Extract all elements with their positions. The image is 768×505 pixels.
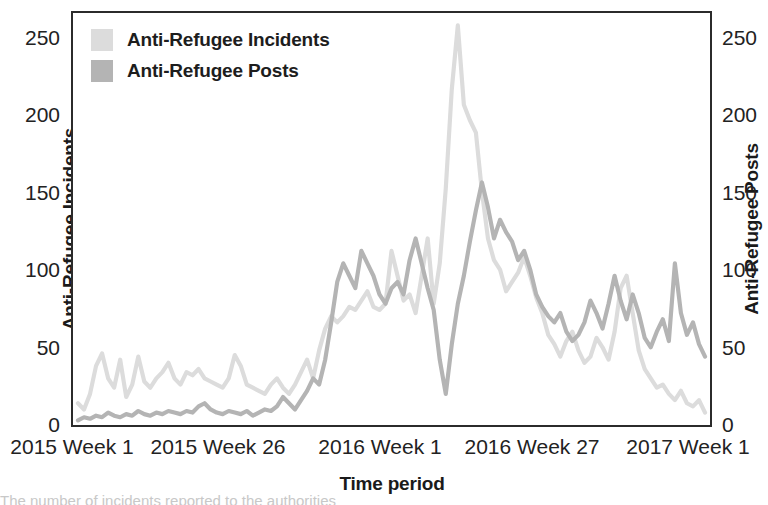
legend-label-incidents: Anti-Refugee Incidents (127, 29, 330, 51)
x-axis-tick-2017-week-1: 2017 Week 1 (608, 435, 768, 459)
y-axis-left-tick-250: 250 (8, 26, 60, 50)
y-axis-right-tick-250: 250 (722, 26, 768, 50)
x-axis-tick-2016-week-27: 2016 Week 27 (452, 435, 612, 459)
x-axis-tick-2015-week-26: 2015 Week 26 (138, 435, 298, 459)
y-axis-left-tick-100: 100 (8, 258, 60, 282)
legend-item-incidents: Anti-Refugee Incidents (91, 29, 330, 51)
plot-area: Anti-Refugee Incidents Anti-Refugee Post… (71, 11, 712, 427)
y-axis-right-title: Anti-Refugee Posts (741, 99, 763, 359)
y-axis-left-tick-0: 0 (8, 413, 60, 437)
x-axis-tick-2016-week-1: 2016 Week 1 (300, 435, 460, 459)
legend-swatch-posts (91, 60, 113, 82)
y-axis-right-tick-200: 200 (722, 103, 768, 127)
y-axis-left-tick-50: 50 (8, 336, 60, 360)
y-axis-left-tick-200: 200 (8, 103, 60, 127)
y-axis-right-tick-0: 0 (722, 413, 768, 437)
chart-legend: Anti-Refugee Incidents Anti-Refugee Post… (91, 29, 330, 91)
page-bottom-partial-text: The number of incidents reported to the … (0, 492, 768, 505)
y-axis-right-tick-100: 100 (722, 258, 768, 282)
y-axis-left-tick-150: 150 (8, 181, 60, 205)
y-axis-right-tick-50: 50 (722, 336, 768, 360)
chart-figure: Anti-Refugee Incidents Anti-Refugee Post… (0, 0, 768, 505)
y-axis-right-tick-150: 150 (722, 181, 768, 205)
x-axis-tick-2015-week-1: 2015 Week 1 (0, 435, 152, 459)
legend-item-posts: Anti-Refugee Posts (91, 60, 330, 82)
legend-swatch-incidents (91, 29, 113, 51)
line-series-anti-refugee-posts (78, 182, 705, 420)
legend-label-posts: Anti-Refugee Posts (127, 60, 299, 82)
